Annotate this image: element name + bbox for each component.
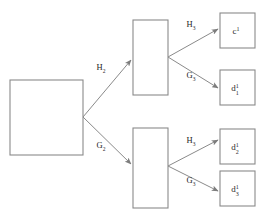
node-mid-lower-box — [133, 128, 168, 208]
edge-label-mid-upper-to-d1: G3 — [187, 70, 196, 82]
diagram-svg: c1 d11 d12 d13 H2 G2 H3 G3 H3 G3 — [0, 0, 265, 216]
edge-label-root-to-mid-lower: G2 — [97, 140, 106, 152]
node-root-box — [10, 80, 83, 155]
edge-mid-lower-to-d3 — [168, 166, 218, 191]
edge-root-to-mid-upper — [83, 60, 131, 117]
edge-label-mid-lower-to-d2: H3 — [187, 135, 196, 147]
edge-label-mid-upper-to-c1: H3 — [187, 19, 196, 31]
edge-label-mid-lower-to-d3: G3 — [187, 175, 196, 187]
edge-mid-upper-to-c1 — [168, 29, 218, 57]
edge-root-to-mid-lower — [83, 117, 131, 164]
edge-label-root-to-mid-upper: H2 — [97, 62, 106, 74]
diagram-canvas: c1 d11 d12 d13 H2 G2 H3 G3 H3 G3 — [0, 0, 265, 216]
edge-mid-upper-to-d1 — [168, 57, 218, 88]
node-mid-upper-box — [133, 20, 168, 95]
edge-group-root — [83, 60, 131, 164]
